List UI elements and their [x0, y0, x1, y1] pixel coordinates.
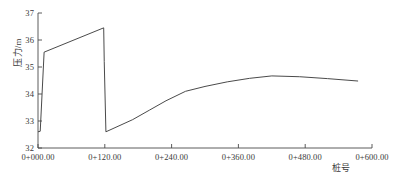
x-axis-tick-label: 0+480.00: [289, 152, 322, 162]
chart-figure: 压力/m 桩号 323334353637 0+000.000+120.000+2…: [0, 0, 398, 181]
data-series-group: [38, 28, 358, 132]
x-axis-title: 桩号: [332, 161, 350, 174]
y-axis-tick-label: 35: [8, 62, 34, 72]
x-axis-tick-label: 0+600.00: [355, 152, 388, 162]
x-axis-ticks: [38, 144, 372, 148]
data-series-line: [38, 28, 358, 132]
y-axis-tick-label: 33: [8, 116, 34, 126]
y-axis-tick-label: 36: [8, 35, 34, 45]
x-axis-tick-label: 0+360.00: [222, 152, 255, 162]
y-axis-tick-label: 34: [8, 89, 34, 99]
x-axis-tick-label: 0+240.00: [155, 152, 188, 162]
y-axis-title: 压力/m: [11, 23, 24, 83]
chart-plot-svg: [0, 0, 398, 181]
x-axis-tick-label: 0+120.00: [88, 152, 121, 162]
y-axis-tick-label: 37: [8, 8, 34, 18]
x-axis-tick-label: 0+000.00: [21, 152, 54, 162]
